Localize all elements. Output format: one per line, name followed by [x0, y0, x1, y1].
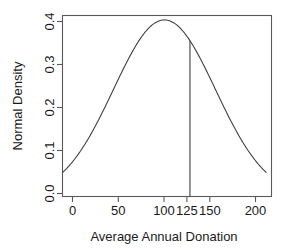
x-tick-label-150: 150	[199, 203, 221, 218]
plot-frame	[63, 16, 272, 197]
x-axis-ticks	[73, 197, 256, 203]
density-curve	[63, 20, 267, 173]
y-tick-label-0.3: 0.3	[42, 55, 57, 73]
y-tick-label-0.0: 0.0	[42, 184, 57, 202]
chart-canvas: 0.4 0.3 0.2 0.1 0.0 0 50 100 125 150 200	[0, 0, 291, 252]
x-tick-label-125: 125	[176, 203, 198, 218]
normal-density-chart: 0.4 0.3 0.2 0.1 0.0 0 50 100 125 150 200	[0, 0, 291, 252]
y-axis-tick-labels: 0.4 0.3 0.2 0.1 0.0	[42, 12, 57, 202]
y-axis-title: Normal Density	[10, 61, 25, 150]
y-tick-label-0.1: 0.1	[42, 141, 57, 159]
x-tick-label-100: 100	[153, 203, 175, 218]
x-tick-label-50: 50	[111, 203, 125, 218]
x-axis-title: Average Annual Donation	[90, 229, 237, 244]
y-tick-label-0.4: 0.4	[42, 12, 57, 30]
x-tick-label-0: 0	[69, 203, 76, 218]
y-axis-ticks	[57, 22, 63, 194]
x-tick-label-200: 200	[245, 203, 267, 218]
x-axis-tick-labels: 0 50 100 125 150 200	[69, 203, 266, 218]
y-tick-label-0.2: 0.2	[42, 98, 57, 116]
